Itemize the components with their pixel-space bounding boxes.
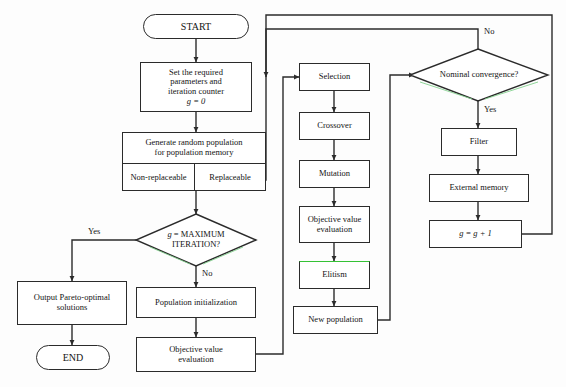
node-replaceable[interactable]: Replaceable — [194, 164, 266, 191]
node-elitism[interactable]: Elitism — [299, 261, 370, 289]
node-selection[interactable]: Selection — [299, 63, 370, 91]
node-new-population[interactable]: New population — [293, 306, 378, 334]
node-increment-generation[interactable]: g = g + 1 — [429, 220, 522, 248]
edge-label-yes-convergence: Yes — [484, 104, 496, 114]
edge-maxiter-yes-to-output — [72, 240, 140, 281]
node-population-initialization[interactable]: Population initialization — [136, 287, 256, 318]
edge-label-yes-max-iteration: Yes — [88, 226, 100, 236]
edge-label-no-convergence: No — [484, 26, 494, 36]
decision-max-iteration[interactable]: g = MAXIMUM ITERATION? — [136, 214, 256, 266]
edge-newpopulation-to-convergence — [378, 75, 414, 320]
node-objective-value-evaluation-bottom[interactable]: Objective value evaluation — [136, 337, 256, 372]
node-output-pareto-optimal[interactable]: Output Pareto-optimal solutions — [17, 281, 127, 325]
node-set-parameters[interactable]: Set the required parameters and iteratio… — [140, 62, 252, 112]
node-start[interactable]: START — [143, 14, 249, 39]
flowchart-canvas: START Set the required parameters and it… — [0, 0, 566, 387]
node-filter[interactable]: Filter — [441, 128, 517, 156]
decision-nominal-convergence[interactable]: Nominal convergence? — [410, 49, 548, 101]
node-non-replaceable[interactable]: Non-replaceable — [122, 164, 195, 191]
node-mutation[interactable]: Mutation — [299, 160, 370, 188]
node-external-memory[interactable]: External memory — [429, 174, 529, 202]
node-generate-random-population[interactable]: Generate random population for populatio… — [122, 132, 266, 164]
node-objective-value-evaluation-middle[interactable]: Objective value evaluation — [299, 206, 370, 243]
node-crossover[interactable]: Crossover — [299, 112, 370, 140]
node-end[interactable]: END — [36, 345, 110, 370]
edge-label-no-max-iteration: No — [202, 268, 212, 278]
